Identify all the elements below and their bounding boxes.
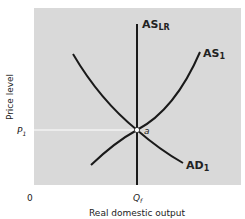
y-axis-label: Price level [5,74,15,120]
origin-label: 0 [27,193,33,203]
p1-tick-label: P1 [17,126,26,137]
x-axis-label: Real domestic output [89,208,185,218]
qf-tick-label: Qf [133,193,143,204]
equilibrium-point [134,127,139,132]
point-a-label: a [144,126,150,136]
chart: a ASLR AS1 AD1 P1 0 Qf Real domestic out… [0,0,245,219]
